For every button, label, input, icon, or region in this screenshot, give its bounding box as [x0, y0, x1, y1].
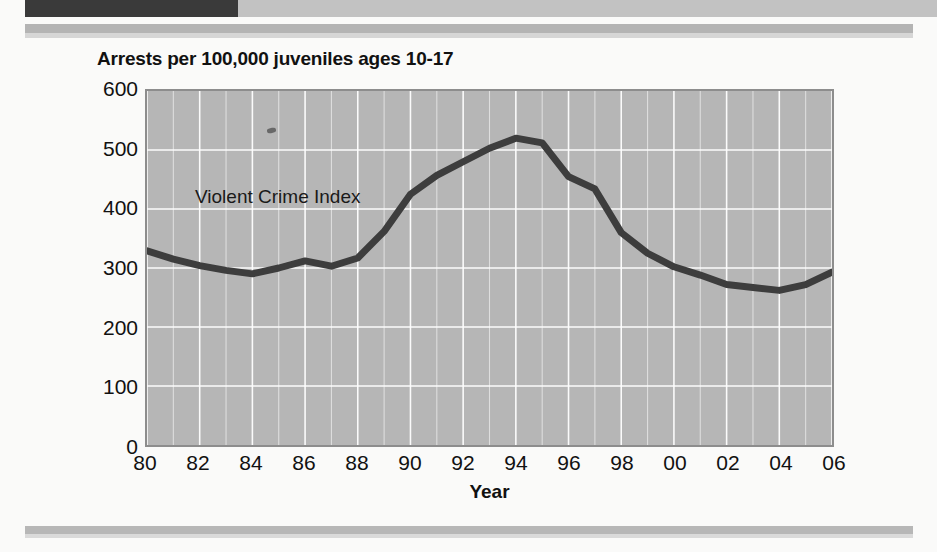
y-axis-tick-label: 100	[84, 376, 138, 397]
line-series-violent-crime-index	[147, 91, 832, 445]
x-axis-tick-label: 98	[600, 452, 644, 473]
x-axis-tick-label: 80	[123, 452, 167, 473]
x-axis-tick-label: 86	[282, 452, 326, 473]
y-axis-tick-label: 200	[84, 317, 138, 338]
x-axis-tick-label: 90	[388, 452, 432, 473]
y-axis-tick-label: 400	[84, 197, 138, 218]
x-axis-tick-label: 84	[229, 452, 273, 473]
x-axis-label: Year	[145, 481, 834, 503]
chart-title: Arrests per 100,000 juveniles ages 10-17	[97, 48, 453, 70]
series-line	[147, 138, 832, 290]
x-axis-tick-labels: 8082848688909294969800020406	[145, 452, 834, 480]
y-axis-tick-label: 500	[84, 138, 138, 159]
x-axis-tick-label: 92	[441, 452, 485, 473]
x-axis-tick-label: 06	[812, 452, 856, 473]
x-axis-tick-label: 04	[759, 452, 803, 473]
chart-figure: Arrests per 100,000 juveniles ages 10-17…	[0, 0, 937, 552]
x-axis-tick-label: 02	[706, 452, 750, 473]
y-axis-tick-label: 600	[84, 78, 138, 99]
plot-area: Violent Crime Index	[145, 89, 834, 447]
y-axis-tick-label: 300	[84, 257, 138, 278]
x-axis-tick-label: 82	[176, 452, 220, 473]
x-axis-tick-label: 88	[335, 452, 379, 473]
x-axis-tick-label: 96	[547, 452, 591, 473]
x-axis-tick-label: 94	[494, 452, 538, 473]
y-axis-tick-labels: 0100200300400500600	[78, 89, 138, 447]
x-axis-tick-label: 00	[653, 452, 697, 473]
series-annotation-label: Violent Crime Index	[195, 186, 360, 208]
